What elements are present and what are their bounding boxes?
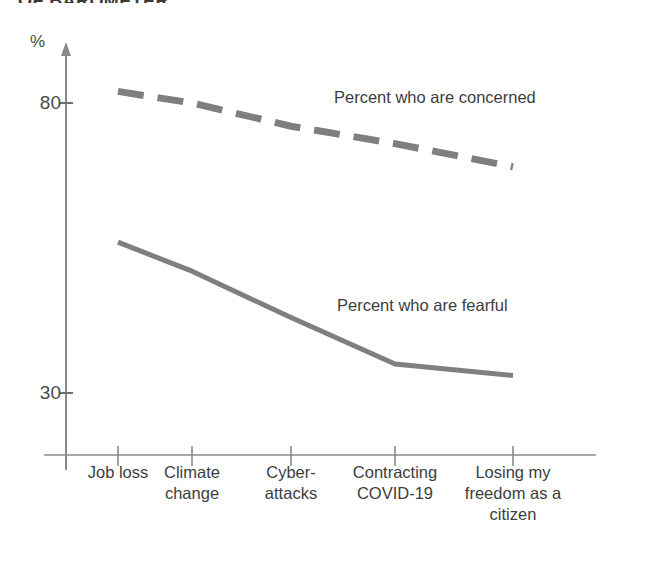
y-axis (59, 42, 73, 470)
x-category-label-losing-freedom: Losing my freedom as a citizen (448, 462, 578, 525)
y-axis-unit-label: % (30, 32, 45, 52)
x-category-label-climate-change: Climate change (142, 462, 242, 504)
series-label-concerned: Percent who are concerned (334, 88, 536, 107)
chart-container: OF BAROMETER % 80 30 Job loss Climate ch… (0, 0, 648, 562)
y-tick-label-30: 30 (15, 382, 61, 404)
x-category-label-contracting-covid-19: Contracting COVID-19 (330, 462, 460, 504)
y-tick-label-80: 80 (15, 92, 61, 114)
series-label-fearful: Percent who are fearful (337, 296, 508, 315)
x-category-label-cyber-attacks: Cyber- attacks (241, 462, 341, 504)
